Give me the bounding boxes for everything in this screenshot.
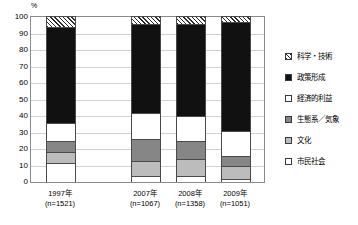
bar-segment-文化: [222, 166, 250, 179]
y-axis-tick-label: 80: [2, 46, 28, 54]
legend-item-科学・技術[interactable]: 科学・技術: [285, 52, 358, 61]
legend-item-市民社会[interactable]: 市民社会: [285, 157, 358, 166]
legend-item-経済的利益[interactable]: 経済的利益: [285, 94, 358, 103]
bar-segment-経済的利益: [177, 116, 205, 141]
y-axis-tick-label: 10: [2, 162, 28, 170]
bar-segment-政策形成: [132, 24, 160, 113]
y-axis-tick-labels: 1009080706050403020100: [0, 16, 28, 183]
bar-segment-生態系／気象: [222, 156, 250, 166]
legend-swatch-icon: [285, 53, 292, 60]
bar-segment-文化: [47, 152, 75, 163]
bar-2009年: [221, 16, 251, 182]
legend-item-label: 政策形成: [297, 73, 325, 82]
x-axis-label-1997年: 1997年(n=1521): [29, 189, 91, 209]
bar-segment-政策形成: [222, 22, 250, 131]
x-label-sample-size: (n=1521): [29, 199, 91, 209]
plot-area: [30, 16, 265, 183]
bar-segment-経済的利益: [222, 131, 250, 156]
bar-segment-市民社会: [132, 176, 160, 182]
bar-segment-市民社会: [47, 163, 75, 182]
chart-footnote: [70, 218, 350, 224]
bar-segment-経済的利益: [132, 113, 160, 139]
x-label-year: 1997年: [29, 189, 91, 199]
y-axis-tick-label: 40: [2, 112, 28, 120]
legend-item-label: 経済的利益: [297, 94, 332, 103]
y-axis-tick-label: 20: [2, 145, 28, 153]
legend-item-label: 生態系／気象: [297, 115, 339, 124]
bar-segment-生態系／気象: [177, 141, 205, 159]
legend-item-label: 市民社会: [297, 157, 325, 166]
legend-item-生態系／気象[interactable]: 生態系／気象: [285, 115, 358, 124]
bar-1997年: [46, 16, 76, 182]
bar-segment-科学・技術: [47, 17, 75, 27]
bar-segment-生態系／気象: [47, 141, 75, 153]
y-axis-tick-label: 70: [2, 63, 28, 71]
bar-segment-経済的利益: [47, 123, 75, 141]
legend-swatch-icon: [285, 137, 292, 144]
legend-item-文化[interactable]: 文化: [285, 136, 358, 145]
bar-segment-市民社会: [177, 176, 205, 182]
bar-segment-生態系／気象: [132, 139, 160, 160]
x-label-sample-size: (n=1051): [204, 199, 266, 209]
bar-2008年: [176, 16, 206, 182]
y-axis-tick-label: 0: [2, 178, 28, 186]
legend-swatch-icon: [285, 74, 292, 81]
bar-segment-文化: [132, 161, 160, 177]
legend-swatch-icon: [285, 95, 292, 102]
bar-segment-科学・技術: [177, 17, 205, 24]
stacked-bar-chart: % 1009080706050403020100 1997年(n=1521)20…: [0, 0, 358, 225]
legend-item-政策形成[interactable]: 政策形成: [285, 73, 358, 82]
y-axis-tick-label: 30: [2, 129, 28, 137]
bar-segment-政策形成: [177, 24, 205, 116]
x-label-year: 2009年: [204, 189, 266, 199]
x-axis-label-2009年: 2009年(n=1051): [204, 189, 266, 209]
bar-2007年: [131, 16, 161, 182]
bar-segment-市民社会: [222, 179, 250, 182]
y-axis-tick-label: 90: [2, 30, 28, 38]
legend-swatch-icon: [285, 158, 292, 165]
chart-legend: 科学・技術政策形成経済的利益生態系／気象文化市民社会: [285, 52, 358, 178]
legend-item-label: 文化: [297, 136, 311, 145]
bar-segment-科学・技術: [132, 17, 160, 24]
legend-swatch-icon: [285, 116, 292, 123]
y-axis-tick-label: 50: [2, 96, 28, 104]
bar-segment-文化: [177, 159, 205, 176]
bar-segment-政策形成: [47, 27, 75, 123]
legend-item-label: 科学・技術: [297, 52, 332, 61]
y-axis-tick-label: 60: [2, 79, 28, 87]
y-axis-unit-label: %: [31, 2, 37, 9]
y-axis-tick-label: 100: [2, 13, 28, 21]
